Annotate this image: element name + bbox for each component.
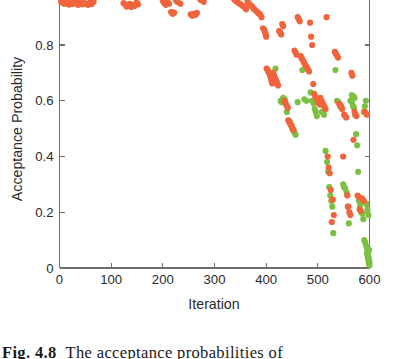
- data-point: [331, 212, 337, 218]
- data-point: [351, 95, 357, 101]
- x-tick-label: 300: [203, 272, 225, 287]
- data-point: [321, 112, 327, 118]
- data-point: [328, 187, 334, 193]
- data-point: [275, 82, 281, 88]
- y-tick-label: 0.2: [35, 205, 53, 220]
- data-point: [309, 42, 315, 48]
- data-point: [310, 81, 316, 87]
- y-tick-label: 0.8: [35, 38, 53, 53]
- x-tick-label: 200: [152, 272, 174, 287]
- data-point: [365, 212, 371, 218]
- data-point: [358, 208, 364, 214]
- data-point: [353, 131, 359, 137]
- x-tick-label: 500: [307, 272, 329, 287]
- data-point: [364, 206, 370, 212]
- data-point: [322, 106, 328, 112]
- figure-container: 00.20.40.60.8 0100200300400500600 Iterat…: [0, 0, 401, 359]
- data-point: [329, 219, 335, 225]
- data-point: [303, 98, 309, 104]
- data-point: [258, 14, 264, 20]
- data-point: [263, 34, 269, 40]
- data-point: [340, 153, 346, 159]
- y-tick-label: 0.6: [35, 93, 53, 108]
- caption-figure-number: Fig. 4.8: [2, 343, 57, 359]
- y-tick-label: 0: [46, 261, 53, 276]
- data-point: [324, 14, 330, 20]
- data-point: [355, 169, 361, 175]
- data-point: [363, 98, 369, 104]
- data-point: [171, 10, 177, 16]
- data-point: [322, 148, 328, 154]
- data-point: [295, 99, 301, 105]
- data-point: [290, 127, 296, 133]
- x-tick-label: 100: [100, 272, 122, 287]
- x-axis-tick-labels: 0100200300400500600: [56, 272, 381, 287]
- data-point: [335, 54, 341, 60]
- data-point: [344, 192, 350, 198]
- y-tick-label: 0.4: [35, 149, 53, 164]
- data-point: [285, 105, 291, 111]
- data-point: [166, 1, 172, 7]
- data-point: [329, 204, 335, 210]
- y-axis-title: Acceptance Probability: [9, 56, 25, 201]
- data-point: [297, 18, 303, 24]
- plot-svg: 00.20.40.60.8 0100200300400500600 Iterat…: [0, 0, 401, 318]
- plot-background: [59, 0, 370, 268]
- scatter-chart: 00.20.40.60.8 0100200300400500600 Iterat…: [0, 0, 401, 318]
- x-tick-label: 400: [255, 272, 277, 287]
- data-point: [324, 159, 330, 165]
- data-point: [347, 212, 353, 218]
- data-point: [280, 23, 286, 29]
- data-point: [194, 10, 200, 16]
- figure-caption: Fig. 4.8 The acceptance probabilities of: [0, 318, 401, 359]
- data-point: [350, 137, 356, 143]
- caption-figure-body: The acceptance probabilities of: [66, 343, 283, 359]
- data-point: [135, 1, 141, 7]
- data-point: [364, 112, 370, 118]
- data-point: [306, 68, 312, 74]
- data-point: [308, 34, 314, 40]
- data-point: [314, 113, 320, 119]
- data-point: [332, 67, 338, 73]
- data-point: [330, 197, 336, 203]
- data-point: [343, 114, 349, 120]
- data-point: [361, 198, 367, 204]
- data-point: [327, 170, 333, 176]
- data-point: [278, 31, 284, 37]
- data-point: [345, 204, 351, 210]
- data-point: [330, 230, 336, 236]
- x-tick-label: 0: [56, 272, 63, 287]
- data-point: [346, 220, 352, 226]
- x-tick-label: 600: [358, 272, 380, 287]
- caption-line: Fig. 4.8 The acceptance probabilities of: [2, 343, 401, 359]
- data-point: [349, 73, 355, 79]
- data-point: [339, 106, 345, 112]
- data-point: [366, 247, 372, 253]
- data-point: [354, 142, 360, 148]
- data-point: [326, 165, 332, 171]
- data-point: [353, 113, 359, 119]
- x-axis-title: Iteration: [188, 296, 239, 312]
- data-point: [325, 153, 331, 159]
- data-point: [177, 1, 183, 7]
- data-point: [307, 20, 313, 26]
- data-point: [362, 103, 368, 109]
- data-point: [360, 216, 366, 222]
- y-axis-tick-labels: 00.20.40.60.8: [35, 38, 53, 276]
